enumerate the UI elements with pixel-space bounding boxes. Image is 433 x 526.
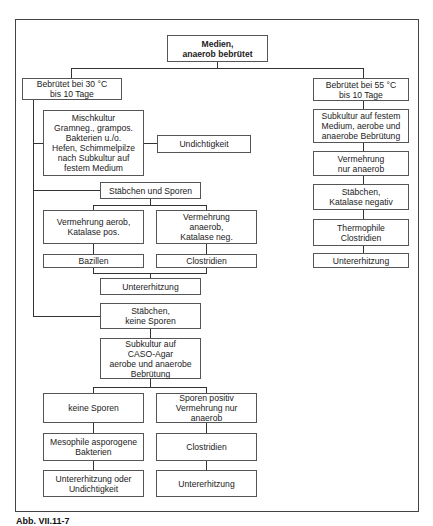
root-node: Medien, anaerob bebrütet <box>167 35 268 62</box>
vermehrung-anaerob-node: Vermehrung anaerob, Katalase neg. <box>156 210 257 244</box>
staebchen-keine-sporen-node: Stäbchen, keine Sporen <box>100 303 201 329</box>
clostridien-node: Clostridien <box>156 254 257 268</box>
undichtigkeit-node: Undichtigkeit <box>157 135 251 153</box>
right-step-1: Subkultur auf festem Medium, aerobe und … <box>313 109 409 143</box>
connector <box>93 205 207 206</box>
connector <box>93 461 94 470</box>
connector <box>71 68 364 69</box>
right-step-5: Untererhitzung <box>313 253 409 268</box>
connector <box>71 68 72 78</box>
connector <box>93 423 94 433</box>
right-branch-header: Bebrütet bei 55 °C bis 10 Tage <box>313 78 409 101</box>
connector <box>144 143 157 144</box>
connector <box>33 316 100 317</box>
connector <box>206 423 207 433</box>
mesophile-node: Mesophile asporogene Bakterien <box>43 433 144 461</box>
figure-caption: Abb. VII.11-7 <box>16 516 70 526</box>
vermehrung-aerob-node: Vermehrung aerob, Katalase pos. <box>43 210 144 244</box>
subkultur-caso-node: Subkultur auf CASO-Agar aerobe und anaer… <box>100 338 201 379</box>
right-step-4: Thermophile Clostridien <box>313 219 409 246</box>
connector <box>363 210 364 219</box>
connector <box>363 176 364 184</box>
untererhitzung-2-node: Untererhitzung <box>156 470 257 497</box>
connector <box>150 329 151 338</box>
untererhitzung-oder-node: Untererhitzung oder Undichtigkeit <box>43 470 144 497</box>
bazillen-node: Bazillen <box>43 254 144 268</box>
clostridien-2-node: Clostridien <box>156 433 257 461</box>
untererhitzung-node: Untererhitzung <box>100 278 201 295</box>
connector <box>363 246 364 253</box>
right-step-3: Stäbchen, Katalase negativ <box>313 184 409 210</box>
connector <box>206 461 207 470</box>
mischkultur-node: Mischkultur Gramneg., grampos. Bakterien… <box>43 110 144 176</box>
connector <box>363 101 364 109</box>
sporen-positiv-node: Sporen positiv Vermehrung nur anaerob <box>156 393 257 423</box>
connector <box>363 143 364 151</box>
connector <box>33 190 100 191</box>
connector <box>150 379 151 387</box>
connector <box>363 68 364 78</box>
connector <box>33 143 43 144</box>
left-branch-header: Bebrütet bei 30 °C bis 10 Tage <box>22 78 122 100</box>
connector <box>206 244 207 254</box>
right-step-2: Vermehrung nur anaerob <box>313 151 409 176</box>
staebchen-sporen-node: Stäbchen und Sporen <box>100 182 201 199</box>
connector <box>33 100 34 317</box>
connector <box>93 387 207 388</box>
keine-sporen-node: keine Sporen <box>43 393 144 423</box>
connector <box>93 244 94 254</box>
